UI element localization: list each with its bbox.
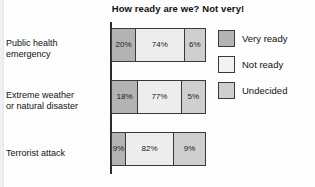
legend-label: Not ready — [242, 59, 283, 70]
category-label-line1: Extreme weather — [6, 90, 110, 101]
bar-segment-undecided: 9% — [174, 133, 205, 165]
plot-area: 20% 74% 6% 18% 77% 5% 9% — [110, 22, 206, 174]
category-label-extreme-weather: Extreme weather or natural disaster — [6, 90, 110, 112]
bar-segment-label: 9% — [113, 145, 125, 153]
bar-segment-not-ready: 74% — [136, 29, 184, 61]
bar-segment-label: 20% — [116, 41, 132, 49]
legend-label: Very ready — [242, 33, 287, 44]
bar-row: 9% 82% 9% — [111, 132, 206, 166]
legend-item-undecided: Undecided — [218, 78, 312, 102]
scan-edge — [0, 0, 4, 187]
category-label-line1: Terrorist attack — [6, 148, 110, 159]
bar-segment-undecided: 5% — [182, 81, 205, 113]
category-label-public-health: Public health emergency — [6, 38, 110, 60]
legend-item-very-ready: Very ready — [218, 26, 312, 50]
bar-segment-not-ready: 77% — [138, 81, 182, 113]
bar-row: 20% 74% 6% — [111, 28, 206, 62]
bar-segment-label: 74% — [152, 41, 168, 49]
legend-swatch-icon — [218, 30, 235, 47]
bar-segment-label: 6% — [189, 41, 201, 49]
bar-segment-very-ready: 18% — [112, 81, 138, 113]
legend-swatch-icon — [218, 82, 235, 99]
bar-segment-label: 5% — [188, 93, 200, 101]
legend-swatch-icon — [218, 56, 235, 73]
bar-segment-very-ready: 20% — [112, 29, 136, 61]
chart-title: How ready are we? Not very! — [103, 3, 253, 14]
category-axis-labels: Public health emergency Extreme weather … — [6, 22, 110, 174]
chart-legend: Very ready Not ready Undecided — [218, 26, 312, 104]
chart-container: How ready are we? Not very! Public healt… — [0, 0, 315, 187]
legend-item-not-ready: Not ready — [218, 52, 312, 76]
bar-segment-label: 77% — [151, 93, 167, 101]
bar-segment-label: 18% — [117, 93, 133, 101]
bar-segment-undecided: 6% — [185, 29, 205, 61]
bar-row: 18% 77% 5% — [111, 80, 206, 114]
bar-segment-label: 82% — [142, 145, 158, 153]
bar-segment-very-ready: 9% — [112, 133, 126, 165]
category-label-terrorist-attack: Terrorist attack — [6, 148, 110, 159]
bar-segment-label: 9% — [184, 145, 196, 153]
category-label-line2: emergency — [6, 49, 110, 60]
legend-label: Undecided — [242, 85, 287, 96]
category-label-line2: or natural disaster — [6, 101, 110, 112]
bar-segment-not-ready: 82% — [126, 133, 174, 165]
category-label-line1: Public health — [6, 38, 110, 49]
